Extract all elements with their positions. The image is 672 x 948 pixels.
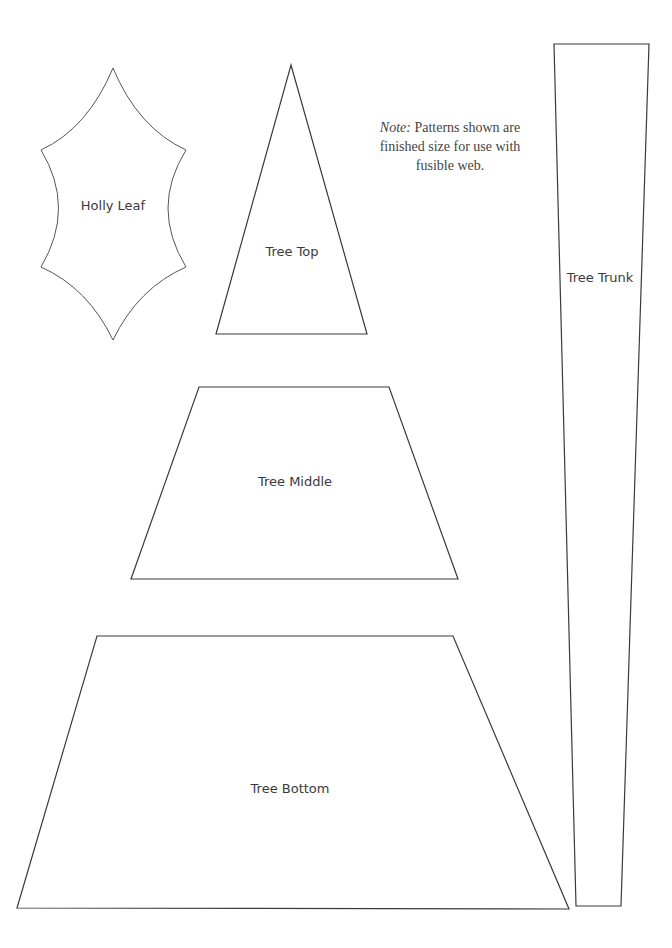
pattern-sheet [0,0,672,948]
pattern-note: Note: Patterns shown are finished size f… [360,118,540,175]
holly-leaf-label: Holly Leaf [81,198,145,213]
note-label: Note: [380,120,411,135]
tree-top-label: Tree Top [265,244,318,259]
tree-top-shape [216,65,367,334]
tree-trunk-label: Tree Trunk [567,270,634,285]
tree-bottom-shape [17,636,569,909]
tree-trunk-shape [554,44,649,906]
tree-bottom-label: Tree Bottom [251,781,330,796]
tree-middle-label: Tree Middle [258,474,332,489]
